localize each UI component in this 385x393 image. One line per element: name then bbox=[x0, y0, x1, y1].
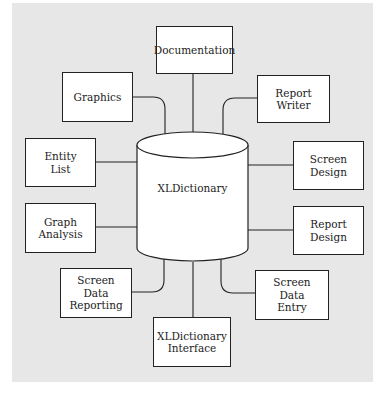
node-label: Screen Design bbox=[310, 153, 347, 178]
node-graph-analysis: Graph Analysis bbox=[25, 203, 96, 253]
node-screen-data-entry: Screen Data Entry bbox=[255, 270, 329, 320]
node-label: Graph Analysis bbox=[38, 216, 82, 241]
node-label: Graphics bbox=[74, 91, 122, 104]
node-report-design: Report Design bbox=[293, 206, 364, 255]
database-cylinder bbox=[137, 132, 248, 261]
node-label: Report Design bbox=[310, 218, 347, 243]
node-label: XLDictionary Interface bbox=[157, 330, 227, 355]
node-documentation: Documentation bbox=[156, 26, 233, 74]
node-entity-list: Entity List bbox=[25, 138, 96, 187]
node-report-writer: Report Writer bbox=[257, 75, 330, 123]
node-screen-design: Screen Design bbox=[293, 141, 364, 190]
node-screen-data-reporting: Screen Data Reporting bbox=[60, 268, 132, 318]
node-xldictionary-interface: XLDictionary Interface bbox=[153, 317, 231, 367]
node-label: Screen Data Entry bbox=[273, 276, 310, 314]
node-graphics: Graphics bbox=[62, 72, 133, 122]
center-database-label: XLDictionary bbox=[137, 182, 248, 194]
node-label: Entity List bbox=[44, 150, 76, 175]
node-label: Report Writer bbox=[275, 87, 311, 112]
node-label: Documentation bbox=[154, 44, 235, 57]
node-label: Screen Data Reporting bbox=[69, 274, 122, 312]
